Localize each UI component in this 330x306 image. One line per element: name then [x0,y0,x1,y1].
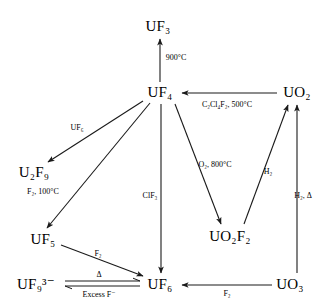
arrow-layer [0,0,330,306]
edge-label-h2: H₂ [264,168,273,176]
node-uf3: UF₃ [145,19,170,34]
edge-uf4-uf5 [47,103,150,228]
edge-uf4-u2f9 [48,101,143,162]
node-uo2f2: UO₂F₂ [209,229,250,244]
edge-label-uf6: UF₆ [70,124,83,132]
edge-uf5-uf6 [61,245,143,276]
node-uf4: UF₄ [147,85,172,100]
node-uo3: UO₃ [276,277,304,292]
edge-label-clf3: ClF₃ [143,192,158,200]
edge-label-f2-100c: F₂, 100°C [27,188,59,196]
edge-label-h2-delta: H₂, Δ [294,192,312,200]
edge-uo2f2-uo2 [244,105,288,224]
edge-label-excess-fluoride: Excess F⁻ [83,291,116,299]
node-u2f9: U₂F₉ [19,165,49,180]
node-uo2: UO₂ [283,85,311,100]
edge-label-f2-uf5: F₂ [94,250,101,258]
node-uf6: UF₆ [147,277,172,292]
edge-label-c2cl4f2-500c: C₂Cl₄F₂, 500°C [202,101,252,109]
edge-label-f2-uo3: F₂ [223,290,230,298]
edge-label-900c: 900°C [166,54,187,62]
edge-label-delta: Δ [96,271,101,279]
edge-label-o2-800c: O₂, 800°C [198,161,231,169]
reaction-scheme-diagram: UF₃ UF₄ UO₂ U₂F₉ UF₅ UF₉³⁻ UF₆ UO₂F₂ UO₃… [0,0,330,306]
node-uf5: UF₅ [30,232,55,247]
node-uf9-3-minus: UF₉³⁻ [17,277,55,292]
